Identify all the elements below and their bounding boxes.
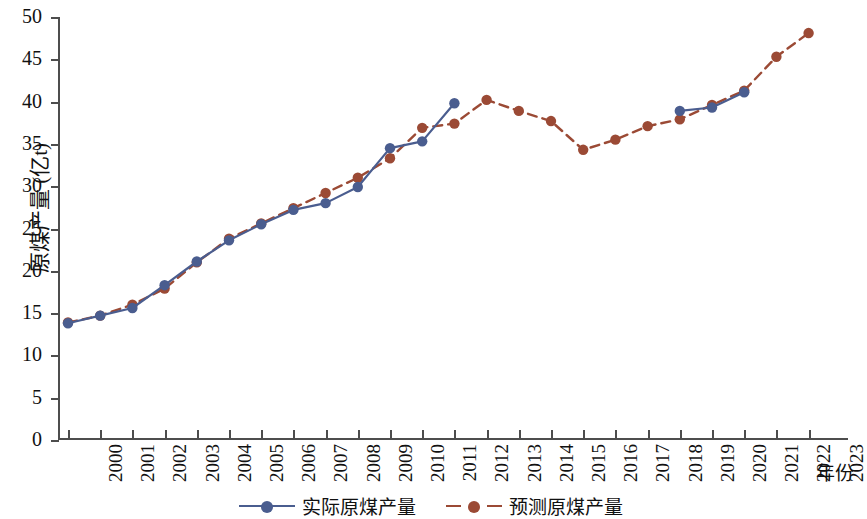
y-tick-label: 10	[12, 344, 42, 364]
predicted-data-point	[610, 134, 620, 144]
y-tick-mark	[51, 229, 59, 231]
actual-data-point	[707, 102, 717, 112]
y-tick-label: 25	[12, 218, 42, 238]
y-tick-label: 5	[12, 387, 42, 407]
y-tick-mark	[51, 17, 59, 19]
y-tick-mark	[51, 355, 59, 357]
actual-data-point	[288, 205, 298, 215]
actual-data-point	[385, 143, 395, 153]
x-tick-mark	[583, 430, 585, 438]
x-tick-mark	[100, 430, 102, 438]
x-axis-title: 年份	[816, 458, 854, 485]
legend-entry-actual[interactable]: 实际原煤产量	[239, 492, 416, 519]
predicted-data-point	[385, 153, 395, 163]
x-tick-mark	[261, 430, 263, 438]
x-tick-mark	[68, 430, 70, 438]
y-tick-label: 20	[12, 260, 42, 280]
actual-data-point	[224, 235, 234, 245]
y-tick-label: 45	[12, 48, 42, 68]
x-tick-mark	[615, 430, 617, 438]
predicted-data-point	[481, 95, 491, 105]
y-tick-label: 15	[12, 302, 42, 322]
legend-entry-predicted[interactable]: 预测原煤产量	[446, 492, 623, 519]
x-tick-mark	[390, 430, 392, 438]
actual-data-point	[449, 98, 459, 108]
chart-legend: 实际原煤产量 预测原煤产量	[0, 492, 862, 519]
plot-area	[58, 17, 848, 440]
actual-data-point	[675, 106, 685, 116]
legend-label-predicted: 预测原煤产量	[509, 492, 623, 519]
predicted-data-point	[514, 106, 524, 116]
y-tick-label: 40	[12, 91, 42, 111]
x-tick-mark	[454, 430, 456, 438]
actual-data-point	[353, 182, 363, 192]
predicted-data-point	[642, 121, 652, 131]
legend-swatch-predicted	[446, 499, 502, 513]
x-tick-mark	[165, 430, 167, 438]
actual-data-point	[159, 280, 169, 290]
y-axis-tick-labels: 05101520253035404550	[8, 0, 42, 460]
legend-line-predicted-right	[487, 505, 502, 508]
y-tick-mark	[51, 398, 59, 400]
legend-marker-actual	[261, 501, 273, 513]
actual-data-point	[192, 256, 202, 266]
legend-label-actual: 实际原煤产量	[302, 492, 416, 519]
x-tick-mark	[293, 430, 295, 438]
x-tick-mark	[712, 430, 714, 438]
x-tick-mark	[519, 430, 521, 438]
actual-data-point	[95, 310, 105, 320]
y-tick-label: 0	[12, 429, 42, 449]
x-tick-mark	[744, 430, 746, 438]
y-tick-mark	[51, 102, 59, 104]
y-tick-mark	[51, 186, 59, 188]
y-tick-label: 35	[12, 133, 42, 153]
actual-line	[68, 103, 454, 323]
predicted-data-point	[546, 116, 556, 126]
predicted-data-point	[417, 123, 427, 133]
legend-swatch-actual	[239, 499, 295, 513]
x-tick-mark	[680, 430, 682, 438]
y-tick-mark	[51, 313, 59, 315]
y-tick-mark	[51, 59, 59, 61]
predicted-line	[68, 33, 809, 322]
y-tick-label: 30	[12, 175, 42, 195]
y-tick-mark	[51, 144, 59, 146]
x-tick-mark	[487, 430, 489, 438]
y-tick-label: 50	[12, 6, 42, 26]
actual-data-point	[417, 136, 427, 146]
predicted-data-point	[578, 145, 588, 155]
actual-data-point	[739, 87, 749, 97]
x-tick-mark	[809, 430, 811, 438]
legend-marker-predicted	[468, 501, 480, 513]
x-tick-mark	[132, 430, 134, 438]
x-tick-mark	[648, 430, 650, 438]
x-tick-mark	[551, 430, 553, 438]
data-series-layer	[58, 17, 848, 440]
x-tick-mark	[776, 430, 778, 438]
x-tick-mark	[326, 430, 328, 438]
actual-data-point	[63, 318, 73, 328]
predicted-data-point	[320, 188, 330, 198]
actual-data-point	[320, 198, 330, 208]
x-tick-mark	[197, 430, 199, 438]
predicted-data-point	[449, 118, 459, 128]
predicted-data-point	[771, 52, 781, 62]
x-tick-mark	[422, 430, 424, 438]
x-tick-mark	[229, 430, 231, 438]
legend-line-predicted-left	[446, 505, 461, 508]
predicted-data-point	[803, 28, 813, 38]
x-tick-mark	[358, 430, 360, 438]
actual-data-point	[127, 303, 137, 313]
actual-data-point	[256, 219, 266, 229]
y-tick-mark	[51, 271, 59, 273]
